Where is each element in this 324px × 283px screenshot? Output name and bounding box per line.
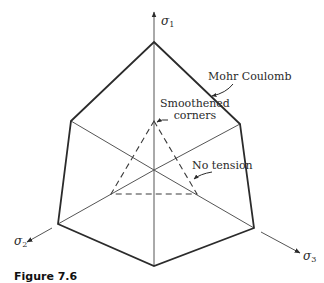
spoke-upper-left (71, 121, 154, 170)
sigma2-axis (27, 228, 52, 242)
sigma3-axis-inner (154, 170, 254, 228)
sigma3-label: σ3 (303, 250, 316, 264)
sigma1-label: σ1 (161, 15, 174, 29)
sigma1-subscript: 1 (169, 20, 174, 29)
sigma2-subscript: 2 (22, 240, 27, 249)
figure-caption: Figure 7.6 (14, 270, 77, 283)
sigma3-symbol: σ (303, 249, 311, 263)
mohr-coulomb-leader (212, 84, 233, 96)
sigma1-symbol: σ (161, 14, 169, 28)
mohr-coulomb-label: Mohr Coulomb (208, 71, 291, 82)
smoothened-label-line2: corners (160, 110, 230, 121)
sigma3-subscript: 3 (311, 255, 316, 264)
sigma2-symbol: σ (14, 234, 22, 248)
no-tension-leader (194, 172, 212, 179)
sigma3-axis (261, 232, 300, 253)
smoothened-corners-label: Smoothened corners (160, 98, 230, 121)
sigma2-label: σ2 (14, 235, 27, 249)
smoothened-label-line1: Smoothened (160, 98, 230, 109)
sigma2-axis-inner (58, 170, 154, 224)
no-tension-label: No tension (192, 160, 253, 171)
